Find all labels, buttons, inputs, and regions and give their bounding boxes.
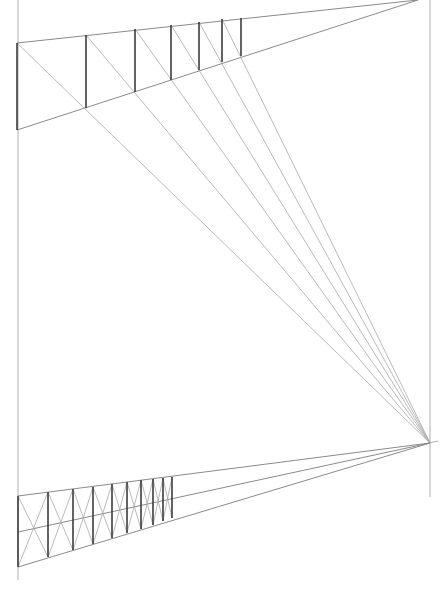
- cell-diagonal: [48, 489, 73, 557]
- top-fence-upper-line: [17, 0, 418, 43]
- bottom-fence-bottom-line: [18, 443, 430, 567]
- bottom-fence-middle-line: [18, 443, 430, 532]
- top-fence-lower-line: [17, 0, 418, 130]
- ray-to-vanishing-point: [171, 25, 430, 443]
- cell-diagonal: [93, 484, 112, 544]
- perspective-drawing: [0, 0, 447, 595]
- ray-to-vanishing-point: [199, 22, 430, 443]
- ray-to-vanishing-point: [135, 29, 430, 443]
- frame-rules: [18, 0, 438, 580]
- ray-to-vanishing-point: [17, 43, 430, 443]
- ray-to-vanishing-point: [86, 35, 430, 443]
- bottom-fence-top-line: [18, 443, 430, 496]
- cell-diagonal: [18, 492, 48, 567]
- bottom-fence: [18, 443, 430, 567]
- ray-to-vanishing-point: [222, 19, 430, 443]
- top-fence: [17, 0, 430, 443]
